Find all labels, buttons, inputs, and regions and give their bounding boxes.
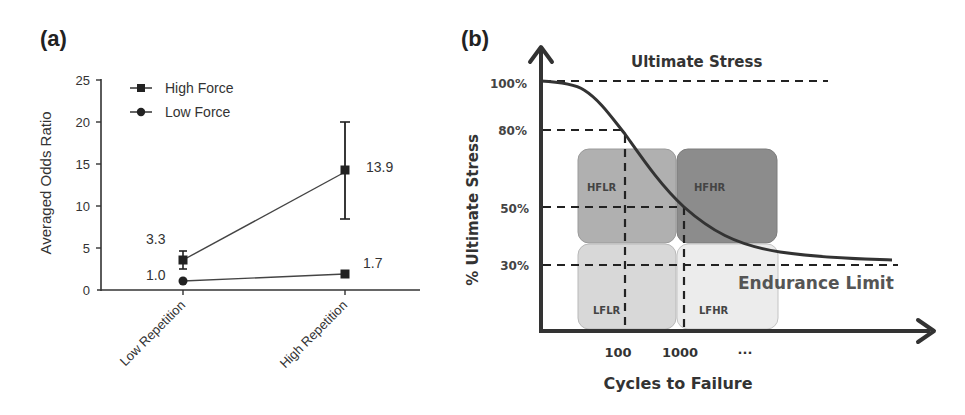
y-tick-100pct: 100% (490, 77, 527, 91)
endurance-limit-label: Endurance Limit (738, 273, 894, 293)
region-label-hflr: HFLR (587, 182, 617, 193)
panel-b: (b) HFLR HFHR LFLR LFHR Ultimate S (461, 26, 934, 393)
y-tick-10: 10 (76, 199, 90, 214)
x-tick-100: 100 (604, 345, 631, 360)
panel-a-y-tick-labels: 0 5 10 15 20 25 (76, 73, 90, 298)
panel-b-x-axis-label: Cycles to Failure (603, 374, 752, 393)
series-low-force (179, 270, 350, 286)
legend-square-marker-icon (137, 84, 145, 92)
y-tick-5: 5 (83, 241, 90, 256)
square-marker-icon (341, 270, 350, 279)
x-tick-high-repetition: High Repetition (277, 298, 350, 371)
x-tick-1000: 1000 (662, 345, 698, 360)
panel-a-y-axis-label: Averaged Odds Ratio (37, 111, 54, 254)
annotation-1-0: 1.0 (146, 267, 166, 283)
panel-a: (a) Averaged Odds Ratio 0 5 10 15 20 25 … (37, 26, 420, 371)
region-lflr (578, 244, 676, 329)
panel-a-label: (a) (40, 26, 67, 51)
annotation-3-3: 3.3 (146, 231, 166, 247)
ultimate-stress-title: Ultimate Stress (631, 53, 762, 71)
panel-b-label: (b) (461, 26, 489, 51)
x-tick-low-repetition: Low Repetition (117, 298, 188, 369)
region-label-lflr: LFLR (593, 305, 621, 316)
square-marker-icon (341, 166, 350, 175)
legend-circle-marker-icon (137, 108, 145, 116)
square-marker-icon (179, 256, 188, 265)
annotation-1-7: 1.7 (363, 255, 383, 271)
region-hfhr (677, 149, 777, 243)
y-tick-0: 0 (83, 283, 90, 298)
legend-low-force: Low Force (165, 104, 231, 120)
y-tick-20: 20 (76, 115, 90, 130)
panel-b-y-axis-label: % Ultimate Stress (464, 134, 482, 286)
annotation-13-9: 13.9 (366, 159, 393, 175)
x-tick-ellipsis: ... (738, 342, 753, 357)
y-tick-50pct: 50% (500, 202, 529, 216)
legend: High Force Low Force (130, 80, 234, 120)
y-tick-80pct: 80% (498, 124, 527, 138)
y-tick-25: 25 (76, 73, 90, 88)
region-label-lfhr: LFHR (699, 305, 729, 316)
region-label-hfhr: HFHR (694, 182, 726, 193)
y-tick-15: 15 (76, 157, 90, 172)
y-tick-30pct: 30% (500, 259, 529, 273)
legend-high-force: High Force (165, 80, 234, 96)
series-high-force (179, 122, 351, 269)
circle-marker-icon (179, 277, 188, 286)
region-hflr (578, 149, 676, 243)
